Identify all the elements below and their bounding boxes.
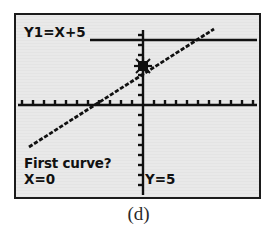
x-axis — [18, 100, 257, 105]
prompt-first-curve: First curve? — [24, 157, 111, 171]
y-coordinate-readout: Y=5 — [145, 173, 175, 187]
figure-container: Y1=X+5 First curve? X=0 Y=5 (d) — [0, 0, 277, 239]
equation-label: Y1=X+5 — [24, 26, 86, 40]
x-coordinate-readout: X=0 — [24, 173, 55, 187]
figure-caption: (d) — [0, 203, 277, 225]
curve-y1-linear — [29, 29, 214, 147]
y-axis — [138, 30, 143, 195]
first-curve-cursor-icon — [134, 57, 152, 75]
calculator-screen: Y1=X+5 First curve? X=0 Y=5 — [14, 13, 261, 199]
series-diagonal-line — [29, 29, 214, 147]
